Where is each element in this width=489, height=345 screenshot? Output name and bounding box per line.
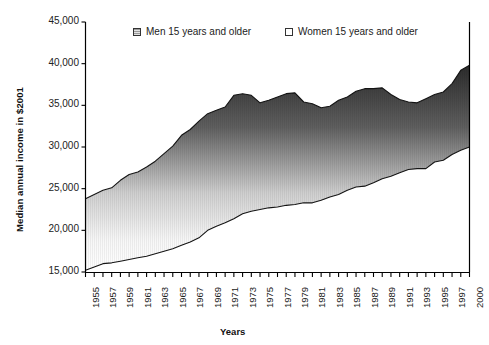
- x-tick-label: 1989: [386, 287, 397, 308]
- x-tick-label: 1977: [282, 287, 293, 308]
- x-tick-label: 1975: [264, 287, 275, 308]
- legend-item-women: Women 15 years and older: [285, 26, 418, 37]
- legend-swatch-women-icon: [285, 28, 293, 36]
- x-tick-label: 1957: [107, 287, 118, 308]
- y-tick-label: 40,000: [30, 57, 79, 68]
- x-tick-label: 1985: [351, 287, 362, 308]
- x-tick-label: 2000: [474, 287, 485, 308]
- legend-item-men: Men 15 years and older: [133, 26, 251, 37]
- legend-swatch-men-icon: [133, 28, 141, 36]
- x-tick-label: 1997: [456, 287, 467, 308]
- x-tick-label: 1955: [90, 287, 101, 308]
- x-tick-label: 1979: [299, 287, 310, 308]
- x-tick-label: 1971: [229, 287, 240, 308]
- x-tick-label: 1995: [439, 287, 450, 308]
- y-tick-label: 35,000: [30, 98, 79, 109]
- x-tick-label: 1991: [404, 287, 415, 308]
- legend-label-men: Men 15 years and older: [146, 26, 251, 37]
- income-area-chart: Median annual income in $2001: [0, 0, 489, 345]
- x-tick-label: 1987: [369, 287, 380, 308]
- x-tick-label: 1967: [194, 287, 205, 308]
- x-tick-label: 1963: [159, 287, 170, 308]
- x-tick-label: 1981: [316, 287, 327, 308]
- y-tick-label: 25,000: [30, 182, 79, 193]
- legend-label-women: Women 15 years and older: [298, 26, 418, 37]
- x-tick-label: 1983: [334, 287, 345, 308]
- plot-area: [0, 0, 489, 345]
- x-tick-label: 1993: [421, 287, 432, 308]
- y-tick-label: 15,000: [30, 265, 79, 276]
- x-axis-title: Years: [220, 326, 245, 337]
- x-tick-label: 1959: [124, 287, 135, 308]
- x-tick-label: 1961: [142, 287, 153, 308]
- y-tick-label: 45,000: [30, 15, 79, 26]
- x-tick-label: 1969: [212, 287, 223, 308]
- x-tick-label: 1973: [247, 287, 258, 308]
- y-tick-label: 30,000: [30, 140, 79, 151]
- x-tick-label: 1965: [177, 287, 188, 308]
- y-tick-label: 20,000: [30, 223, 79, 234]
